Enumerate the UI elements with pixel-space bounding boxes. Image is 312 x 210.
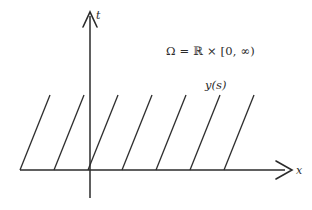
characteristic-line [190, 95, 220, 170]
diagram-canvas [0, 0, 312, 210]
t-axis-label: t [96, 10, 100, 21]
characteristic-line [156, 95, 186, 170]
domain-expression-label: Ω = ℝ × [0, ∞) [166, 46, 255, 58]
characteristic-lines-group [20, 95, 254, 170]
characteristic-line [88, 95, 118, 170]
characteristic-line [20, 95, 50, 170]
characteristic-line [54, 95, 84, 170]
x-axis-label: x [296, 165, 302, 176]
domain-diagram: t x Ω = ℝ × [0, ∞) y(s) [0, 0, 312, 210]
characteristic-line [224, 95, 254, 170]
characteristic-line [122, 95, 152, 170]
characteristic-label: y(s) [205, 80, 226, 92]
